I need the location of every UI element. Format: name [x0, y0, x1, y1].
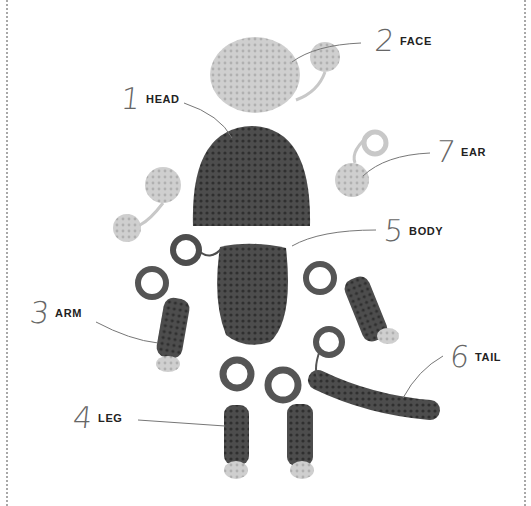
- label-head: 1 HEAD: [121, 84, 180, 114]
- label-face: 2 FACE: [375, 26, 432, 56]
- body-piece: [217, 244, 288, 345]
- leg-pieces: [223, 360, 314, 479]
- part-number: 4: [71, 403, 93, 433]
- part-name: ARM: [55, 307, 82, 319]
- part-name: BODY: [409, 225, 443, 237]
- part-number: 5: [382, 216, 404, 246]
- label-leg: 4 LEG: [73, 403, 123, 433]
- label-ear: 7 EAR: [436, 137, 486, 167]
- part-name: EAR: [461, 146, 486, 158]
- part-number: 6: [448, 342, 470, 372]
- part-name: HEAD: [146, 93, 180, 105]
- part-name: TAIL: [475, 351, 501, 363]
- part-number: 3: [28, 298, 50, 328]
- part-number: 7: [434, 137, 456, 167]
- label-tail: 6 TAIL: [450, 342, 501, 372]
- label-arm: 3 ARM: [30, 298, 82, 328]
- part-number: 2: [373, 26, 395, 56]
- part-name: FACE: [400, 35, 432, 47]
- part-name: LEG: [98, 412, 122, 424]
- head-piece: [193, 126, 310, 226]
- part-number: 1: [119, 84, 141, 114]
- label-body: 5 BODY: [384, 216, 443, 246]
